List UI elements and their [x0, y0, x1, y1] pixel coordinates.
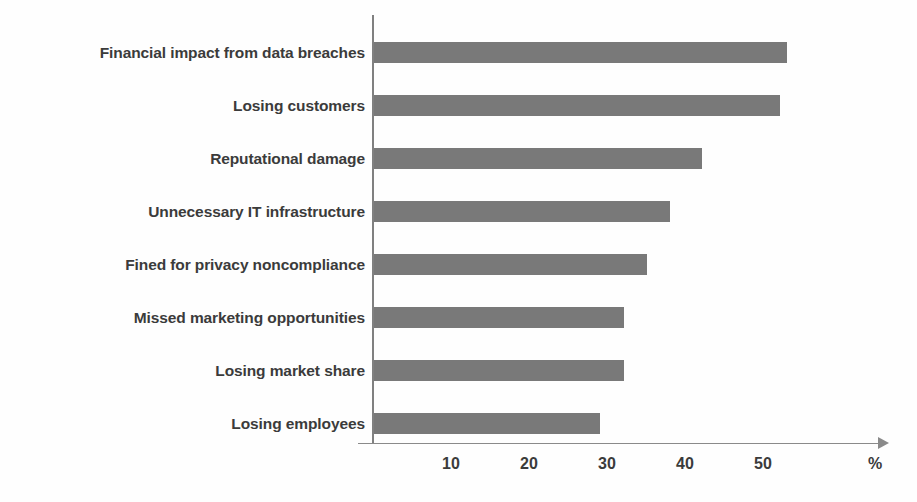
category-label: Reputational damage — [0, 149, 365, 169]
bar-row: Missed marketing opportunities — [0, 291, 917, 344]
x-axis-tick-label: 40 — [655, 455, 715, 473]
bar — [374, 42, 787, 63]
bar — [374, 360, 624, 381]
bar-row: Fined for privacy noncompliance — [0, 238, 917, 291]
category-label: Missed marketing opportunities — [0, 308, 365, 328]
category-label: Fined for privacy noncompliance — [0, 255, 365, 275]
bar-chart: Financial impact from data breachesLosin… — [0, 0, 917, 502]
bar — [374, 95, 780, 116]
category-label: Losing market share — [0, 361, 365, 381]
bar — [374, 413, 600, 434]
bar — [374, 254, 647, 275]
bar — [374, 201, 670, 222]
bar-row: Reputational damage — [0, 132, 917, 185]
x-axis-tick-label: 30 — [577, 455, 637, 473]
bar-row: Unnecessary IT infrastructure — [0, 185, 917, 238]
x-axis-unit-label: % — [845, 455, 905, 473]
category-label: Losing employees — [0, 414, 365, 434]
bar — [374, 148, 702, 169]
bar-row: Losing customers — [0, 79, 917, 132]
category-label: Financial impact from data breaches — [0, 43, 365, 63]
bar-row: Losing market share — [0, 344, 917, 397]
bar-row: Losing employees — [0, 397, 917, 450]
x-axis-tick-label: 20 — [499, 455, 559, 473]
bar-rows: Financial impact from data breachesLosin… — [0, 0, 917, 502]
category-label: Unnecessary IT infrastructure — [0, 202, 365, 222]
bar — [374, 307, 624, 328]
x-axis-tick-label: 50 — [733, 455, 793, 473]
bar-row: Financial impact from data breaches — [0, 26, 917, 79]
category-label: Losing customers — [0, 96, 365, 116]
x-axis-tick-label: 10 — [421, 455, 481, 473]
